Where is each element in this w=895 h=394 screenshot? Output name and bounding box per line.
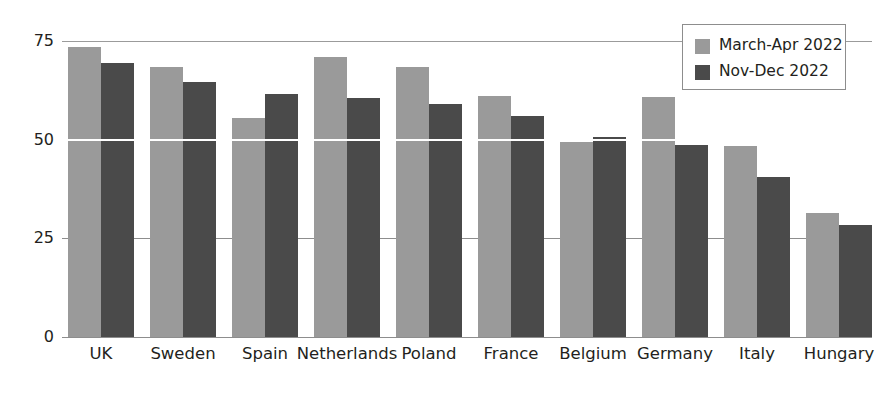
gridline-50-overlay — [62, 139, 872, 141]
legend-item-label: March-Apr 2022 — [719, 38, 843, 54]
x-axis: UKSwedenSpainNetherlandsPolandFranceBelg… — [62, 345, 872, 385]
bar-chart: 0255075 UKSwedenSpainNetherlandsPolandFr… — [0, 0, 895, 394]
legend-swatch-icon — [695, 39, 710, 54]
bar-group — [68, 41, 134, 337]
bar — [347, 98, 380, 337]
bar — [101, 63, 134, 337]
bar-group — [560, 41, 626, 337]
bar — [675, 145, 708, 337]
chart-legend: March-Apr 2022Nov-Dec 2022 — [682, 24, 846, 90]
x-tick-label: UK — [90, 345, 113, 363]
bar — [806, 213, 839, 337]
legend-item-label: Nov-Dec 2022 — [719, 64, 829, 80]
x-axis-line — [62, 337, 872, 338]
x-tick-label: Italy — [739, 345, 775, 363]
bar — [150, 67, 183, 337]
x-tick-label: Sweden — [150, 345, 215, 363]
bar — [560, 142, 593, 337]
x-tick-label: Germany — [637, 345, 713, 363]
y-tick-label: 75 — [8, 33, 54, 49]
bar — [68, 47, 101, 337]
x-tick-label: France — [484, 345, 539, 363]
bar — [314, 57, 347, 337]
bar — [183, 82, 216, 337]
bar-group — [314, 41, 380, 337]
bar — [593, 137, 626, 337]
legend-item[interactable]: March-Apr 2022 — [695, 34, 845, 58]
x-tick-label: Hungary — [804, 345, 874, 363]
y-axis: 0255075 — [0, 0, 54, 394]
bar — [511, 116, 544, 337]
y-tick-label: 50 — [8, 132, 54, 148]
bar-group — [232, 41, 298, 337]
bar — [757, 177, 790, 337]
y-tick-label: 25 — [8, 230, 54, 246]
y-tick-label: 0 — [8, 329, 54, 345]
bar — [265, 94, 298, 337]
bar-group — [396, 41, 462, 337]
bar-group — [150, 41, 216, 337]
x-tick-label: Netherlands — [297, 345, 398, 363]
x-tick-label: Spain — [242, 345, 288, 363]
bar — [396, 67, 429, 337]
bar — [478, 96, 511, 337]
bar — [839, 225, 872, 337]
legend-swatch-icon — [695, 65, 710, 80]
x-tick-label: Belgium — [559, 345, 627, 363]
bar — [232, 118, 265, 337]
x-tick-label: Poland — [401, 345, 456, 363]
bar — [642, 97, 675, 337]
bar-group — [478, 41, 544, 337]
bar — [724, 146, 757, 337]
legend-item[interactable]: Nov-Dec 2022 — [695, 60, 845, 84]
